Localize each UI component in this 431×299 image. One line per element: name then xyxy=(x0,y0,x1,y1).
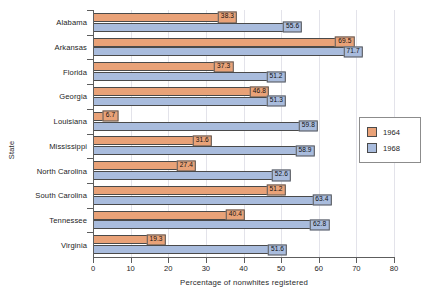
bar-value-label: 51.3 xyxy=(267,96,286,107)
x-axis-tick xyxy=(244,258,245,263)
bar-1964-arkansas xyxy=(93,38,354,47)
x-axis-tick xyxy=(168,258,169,263)
x-axis-tick-label: 70 xyxy=(352,264,360,273)
y-axis-tick xyxy=(87,109,93,110)
y-axis-title: State xyxy=(7,140,16,159)
bar-1964-tennessee xyxy=(93,211,245,220)
legend-item-1964[interactable]: 1964 xyxy=(367,124,414,140)
bar-1968-georgia xyxy=(93,97,286,106)
x-axis-tick-label: 50 xyxy=(277,264,285,273)
category-label: Georgia xyxy=(59,92,87,101)
x-axis-tick xyxy=(131,258,132,263)
bar-1968-florida xyxy=(93,72,286,81)
x-axis-title: Percentage of nonwhites registered xyxy=(93,278,395,287)
category-label: Tennessee xyxy=(49,215,87,224)
legend-swatch-icon xyxy=(367,143,377,153)
x-axis-tick-label: 40 xyxy=(239,264,247,273)
category-axis-labels: AlabamaArkansasFloridaGeorgiaLouisianaMi… xyxy=(20,10,91,257)
legend: 19641968 xyxy=(359,117,421,163)
bar-value-label: 62.8 xyxy=(310,219,329,230)
bar-1968-north-carolina xyxy=(93,171,291,180)
bar-value-label: 52.6 xyxy=(272,170,291,181)
y-axis-tick xyxy=(87,10,93,11)
x-axis-tick xyxy=(319,258,320,263)
x-axis-tick xyxy=(93,258,94,263)
legend-swatch-icon xyxy=(367,127,377,137)
bar-chart: State AlabamaArkansasFloridaGeorgiaLouis… xyxy=(0,0,431,299)
y-axis-tick xyxy=(87,183,93,184)
x-axis-tick xyxy=(206,258,207,263)
category-label: Florida xyxy=(63,67,87,76)
bar-1964-florida xyxy=(93,62,233,71)
x-axis-tick-label: 20 xyxy=(164,264,172,273)
category-label: Louisiana xyxy=(54,117,87,126)
bar-1964-south-carolina xyxy=(93,186,286,195)
y-axis-tick xyxy=(87,232,93,233)
bar-1968-alabama xyxy=(93,23,302,32)
bar-value-label: 37.3 xyxy=(214,61,233,72)
bar-1968-south-carolina xyxy=(93,196,332,205)
bar-value-label: 63.4 xyxy=(312,195,331,206)
bar-1968-arkansas xyxy=(93,47,363,56)
category-label: Virginia xyxy=(61,240,87,249)
category-label: South Carolina xyxy=(35,191,87,200)
category-label: Alabama xyxy=(56,18,87,27)
bar-value-label: 51.6 xyxy=(268,244,287,255)
category-label: Arkansas xyxy=(55,43,87,52)
category-label: Mississippi xyxy=(49,141,87,150)
bar-value-label: 6.7 xyxy=(103,111,118,122)
x-axis-tick xyxy=(394,258,395,263)
x-axis-tick-label: 80 xyxy=(390,264,398,273)
y-axis-tick xyxy=(87,208,93,209)
legend-label: 1968 xyxy=(383,144,400,153)
bar-value-label: 71.7 xyxy=(344,46,363,57)
y-axis-tick xyxy=(87,59,93,60)
y-axis-tick xyxy=(87,35,93,36)
bar-value-label: 27.4 xyxy=(177,160,196,171)
y-axis-tick xyxy=(87,134,93,135)
bar-value-label: 51.2 xyxy=(266,71,285,82)
bar-1968-louisiana xyxy=(93,122,318,131)
x-axis-tick xyxy=(281,258,282,263)
category-label: North Carolina xyxy=(37,166,87,175)
bar-1968-tennessee xyxy=(93,220,329,229)
legend-label: 1964 xyxy=(383,128,400,137)
x-axis-tick-label: 10 xyxy=(126,264,134,273)
bar-value-label: 55.6 xyxy=(283,22,302,33)
x-axis-tick-label: 30 xyxy=(202,264,210,273)
y-axis-tick xyxy=(87,158,93,159)
bar-value-label: 51.2 xyxy=(266,185,285,196)
plot-area: 38.355.669.571.737.351.246.851.36.759.83… xyxy=(93,10,394,257)
y-axis-tick xyxy=(87,84,93,85)
bar-1968-virginia xyxy=(93,245,287,254)
bar-value-label: 40.4 xyxy=(226,210,245,221)
x-axis-tick-label: 60 xyxy=(315,264,323,273)
y-axis-line xyxy=(93,10,94,258)
bar-value-label: 38.3 xyxy=(218,12,237,23)
legend-item-1968[interactable]: 1968 xyxy=(367,140,414,156)
bar-1964-georgia xyxy=(93,87,269,96)
bar-value-label: 19.3 xyxy=(146,234,165,245)
bar-value-label: 31.6 xyxy=(193,135,212,146)
bar-1968-mississippi xyxy=(93,146,315,155)
bar-value-label: 59.8 xyxy=(299,121,318,132)
bar-1964-alabama xyxy=(93,13,237,22)
bar-value-label: 58.9 xyxy=(295,145,314,156)
x-axis-tick-label: 0 xyxy=(91,264,95,273)
x-axis-tick xyxy=(356,258,357,263)
